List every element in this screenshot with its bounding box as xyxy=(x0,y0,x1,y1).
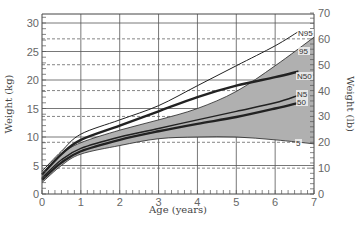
label-p5: 5 xyxy=(296,139,301,148)
y-tick-label: 20 xyxy=(27,74,39,86)
x-tick-label: 0 xyxy=(39,196,45,208)
y-tick-label: 25 xyxy=(27,46,39,58)
x-tick-label: 1 xyxy=(78,196,84,208)
x-tick-label: 7 xyxy=(311,196,317,208)
x-tick-label: 6 xyxy=(272,196,278,208)
y-tick-label: 0 xyxy=(33,188,39,200)
y2-tick-label: 60 xyxy=(318,33,330,45)
label-p95: 95 xyxy=(299,47,308,56)
x-axis-title: Age (years) xyxy=(148,204,207,215)
label-n95: N95 xyxy=(298,29,313,38)
y-axis-title: Weight (kg) xyxy=(3,74,14,133)
label-n50: N50 xyxy=(297,72,312,81)
label-p50: 50 xyxy=(297,98,306,107)
y2-tick-label: 10 xyxy=(318,162,330,174)
x-tick-label: 2 xyxy=(117,196,123,208)
y2-tick-label: 50 xyxy=(318,59,330,71)
y-tick-label: 30 xyxy=(27,17,39,29)
y2-tick-label: 70 xyxy=(318,7,330,19)
y-tick-label: 10 xyxy=(27,131,39,143)
y2-axis-title: Weight (lb) xyxy=(345,76,356,132)
y2-tick-label: 40 xyxy=(318,85,330,97)
y2-tick-label: 20 xyxy=(318,136,330,148)
y2-tick-label: 0 xyxy=(318,188,324,200)
y2-tick-label: 30 xyxy=(318,110,330,122)
y-tick-label: 5 xyxy=(33,160,39,172)
y-tick-label: 15 xyxy=(27,103,39,115)
x-tick-label: 5 xyxy=(233,196,239,208)
growth-chart: 01234567051015202530010203040506070 N959… xyxy=(0,0,356,233)
